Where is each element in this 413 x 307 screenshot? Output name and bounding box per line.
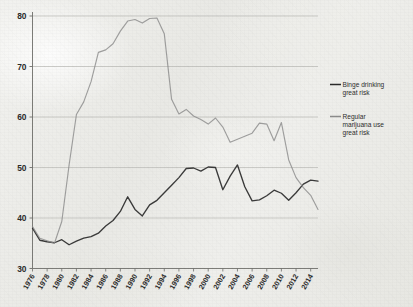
x-tick-label-2012: 2012 <box>284 273 300 292</box>
x-tick-label-1988: 1988 <box>109 273 125 292</box>
y-tick-label-70: 70 <box>17 62 27 72</box>
x-tick-label-2014: 2014 <box>299 272 315 291</box>
legend-label-regular-marijuana-use-line3: great risk <box>343 129 371 137</box>
axis-lines <box>33 12 319 269</box>
x-tick-label-2010: 2010 <box>270 273 286 292</box>
x-tick-label-1994: 1994 <box>153 272 169 291</box>
line-chart: 304050607080 197619781980198219841986198… <box>0 0 413 307</box>
x-tick-label-2008: 2008 <box>255 273 271 292</box>
y-axis-tick-labels: 304050607080 <box>17 11 32 274</box>
x-tick-label-1992: 1992 <box>138 273 154 292</box>
y-tick-label-80: 80 <box>17 11 27 21</box>
y-tick-label-30: 30 <box>17 264 27 274</box>
chart-canvas: 304050607080 197619781980198219841986198… <box>0 0 413 307</box>
gridlines <box>33 16 319 218</box>
x-tick-label-2002: 2002 <box>211 273 227 292</box>
legend-label-binge-drinking-line1: Binge drinking <box>343 81 385 89</box>
x-tick-label-1978: 1978 <box>36 273 52 292</box>
data-series-group <box>33 18 319 245</box>
x-tick-label-1980: 1980 <box>50 273 66 292</box>
x-tick-label-2004: 2004 <box>226 272 242 291</box>
x-tick-label-1986: 1986 <box>94 273 110 292</box>
x-tick-label-1998: 1998 <box>182 273 198 292</box>
series-line-binge-drinking <box>33 165 319 245</box>
x-tick-label-1996: 1996 <box>167 273 183 292</box>
y-tick-label-40: 40 <box>17 213 27 223</box>
y-tick-label-60: 60 <box>17 112 27 122</box>
x-tick-label-1990: 1990 <box>123 273 139 292</box>
chart-legend: Binge drinkinggreat riskRegularmarijuana… <box>330 81 385 137</box>
legend-label-regular-marijuana-use-line1: Regular <box>343 113 367 121</box>
x-tick-label-2000: 2000 <box>197 273 213 292</box>
x-axis-tick-labels: 1976197819801982198419861988199019921994… <box>21 269 316 292</box>
x-tick-label-1984: 1984 <box>79 272 95 291</box>
series-line-regular-marijuana-use <box>33 18 319 243</box>
x-tick-label-2006: 2006 <box>241 273 257 292</box>
legend-label-binge-drinking-line2: great risk <box>343 89 371 97</box>
y-tick-label-50: 50 <box>17 163 27 173</box>
x-tick-label-1982: 1982 <box>65 273 81 292</box>
legend-label-regular-marijuana-use-line2: marijuana use <box>343 121 385 129</box>
x-tick-label-1976: 1976 <box>21 273 37 292</box>
